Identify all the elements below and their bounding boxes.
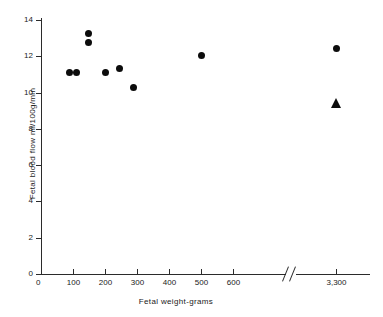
x-axis-tick-label: 200 bbox=[99, 277, 112, 288]
data-point-circle bbox=[116, 65, 123, 72]
x-axis-line-after-break bbox=[296, 274, 370, 275]
x-axis-tick-label: 600 bbox=[227, 277, 240, 288]
axis-break-slash-icon bbox=[289, 266, 296, 281]
data-point-circle bbox=[130, 84, 137, 91]
x-axis-tick-label: 400 bbox=[163, 277, 176, 288]
y-axis-title: Fetal blood flow ml/100g/min bbox=[28, 49, 37, 239]
x-axis-tick: 500 bbox=[201, 269, 202, 274]
x-axis-tick: 400 bbox=[169, 269, 170, 274]
x-axis-tick: 100 bbox=[73, 269, 74, 274]
data-point-circle bbox=[85, 39, 92, 46]
x-axis-tick: 200 bbox=[105, 269, 106, 274]
y-axis-tick: 4 bbox=[36, 201, 41, 202]
x-axis-tick-label: 3,300 bbox=[326, 277, 346, 288]
x-axis-tick: 3,300 bbox=[336, 269, 337, 274]
data-point-triangle bbox=[331, 98, 341, 108]
y-axis-tick: 10 bbox=[36, 93, 41, 94]
y-axis-line bbox=[41, 18, 42, 275]
data-point-circle bbox=[102, 69, 109, 76]
x-axis-line-main bbox=[41, 274, 286, 275]
data-point-circle bbox=[66, 69, 73, 76]
y-axis-tick: 0 bbox=[36, 274, 41, 275]
y-axis-tick: 6 bbox=[36, 165, 41, 166]
y-axis-tick: 8 bbox=[36, 129, 41, 130]
data-point-circle bbox=[85, 30, 92, 37]
x-axis-title: Fetal weight-grams bbox=[41, 297, 311, 306]
x-axis-tick: 300 bbox=[137, 269, 138, 274]
y-axis-tick: 14 bbox=[36, 20, 41, 21]
y-axis-tick-label: 0 bbox=[29, 268, 33, 279]
x-axis-tick-label: 100 bbox=[67, 277, 80, 288]
x-axis-tick-label: 500 bbox=[195, 277, 208, 288]
y-axis-tick-label: 14 bbox=[24, 14, 33, 25]
data-point-circle bbox=[333, 45, 340, 52]
data-point-circle bbox=[198, 52, 205, 59]
y-axis-tick: 2 bbox=[36, 238, 41, 239]
scatter-plot-figure: 02468101214 1002003004005006003,300 0 Fe… bbox=[0, 0, 383, 317]
y-axis-tick: 12 bbox=[36, 56, 41, 57]
data-point-circle bbox=[73, 69, 80, 76]
x-axis-tick-label: 300 bbox=[131, 277, 144, 288]
x-axis-origin-label: 0 bbox=[36, 277, 40, 288]
x-axis-tick: 600 bbox=[233, 269, 234, 274]
